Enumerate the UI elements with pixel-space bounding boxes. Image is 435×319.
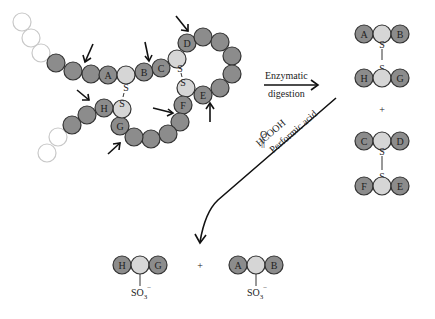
chain-ghost-upper: [13, 13, 50, 62]
svg-text:F: F: [361, 181, 367, 192]
svg-text:||: ||: [261, 137, 265, 148]
svg-text:E: E: [397, 181, 403, 192]
svg-text:Enzymatic: Enzymatic: [265, 70, 308, 81]
svg-text:C: C: [361, 136, 368, 147]
svg-text:S: S: [379, 146, 385, 157]
svg-text:H: H: [360, 73, 367, 84]
product-AB-HG: A B S S H G: [355, 25, 409, 87]
svg-text:A: A: [104, 70, 112, 81]
chain-ghost-lower: [38, 128, 67, 162]
performic-acid-arrow: HCOOH Performic acid O ||: [195, 97, 336, 243]
svg-text:E: E: [200, 90, 206, 101]
polypeptide-upper: A B C D E F G H: [47, 28, 241, 148]
svg-text:D: D: [183, 38, 190, 49]
svg-text:C: C: [158, 63, 165, 74]
plus-sign: +: [379, 104, 385, 115]
svg-text:H: H: [100, 103, 107, 114]
svg-text:S: S: [123, 82, 129, 93]
enzymatic-digestion-arrow: Enzymatic digestion: [264, 70, 318, 99]
svg-text:G: G: [116, 121, 123, 132]
svg-text:F: F: [180, 100, 186, 111]
svg-text:SO3−: SO3−: [131, 284, 151, 301]
svg-text:S: S: [177, 63, 183, 74]
product-AB-sulfonate: A B SO3−: [229, 256, 283, 301]
svg-text:S: S: [379, 39, 385, 50]
svg-text:B: B: [271, 260, 278, 271]
svg-text:S: S: [119, 98, 125, 109]
svg-text:A: A: [234, 260, 242, 271]
product-HG-sulfonate: H G SO3−: [113, 256, 167, 301]
svg-text:G: G: [154, 260, 161, 271]
svg-text:H: H: [118, 260, 125, 271]
svg-text:B: B: [397, 29, 404, 40]
plus-sign-2: +: [197, 260, 203, 271]
svg-text:A: A: [360, 29, 368, 40]
svg-text:S: S: [180, 77, 186, 88]
disulfide-cleavage-diagram: A B C D E F G H S S S: [0, 0, 435, 319]
svg-text:B: B: [141, 67, 148, 78]
svg-text:digestion: digestion: [268, 88, 305, 99]
svg-text:SO3−: SO3−: [247, 284, 267, 301]
product-CD-FE: C D S S F E: [355, 132, 409, 195]
svg-text:G: G: [396, 73, 403, 84]
svg-text:D: D: [396, 136, 403, 147]
